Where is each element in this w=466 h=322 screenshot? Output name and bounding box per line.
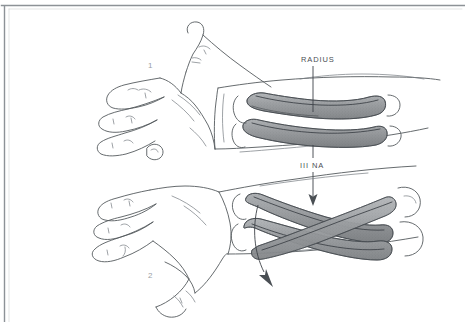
forearm-rotation-figure: RADIUS III NA xyxy=(0,0,466,322)
ulna-label-group: III NA xyxy=(300,145,324,170)
ulna-label: III NA xyxy=(300,161,324,170)
upper-radius-bone xyxy=(247,93,386,119)
anatomical-illustration: RADIUS III NA xyxy=(0,0,466,322)
position-one-label: 1 xyxy=(148,61,153,70)
upper-ulna-bone xyxy=(243,119,387,147)
position-two-label: 2 xyxy=(148,271,153,280)
upper-bone-pair xyxy=(232,93,401,148)
lower-hand-drawing xyxy=(92,186,231,317)
radius-label: RADIUS xyxy=(301,55,335,64)
page-frame xyxy=(1,6,465,322)
upper-hand-drawing xyxy=(97,22,271,160)
lower-bone-pair xyxy=(231,187,423,260)
